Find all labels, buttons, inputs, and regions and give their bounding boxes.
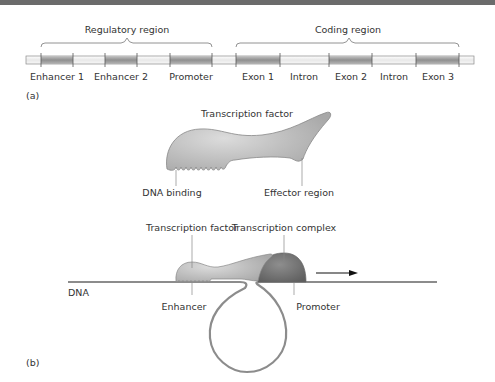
- panel-b: Transcription factor Transcription compl…: [26, 222, 437, 372]
- panel-b-label: (b): [26, 357, 39, 368]
- panel-a: Regulatory region Coding region Enhancer…: [26, 24, 474, 101]
- segment-enhancer-1: [41, 56, 73, 64]
- label-exon-2: Exon 2: [335, 71, 367, 82]
- label-exon-3: Exon 3: [422, 71, 454, 82]
- transcription-factor-bound-shape: [176, 254, 272, 282]
- regulatory-region-label: Regulatory region: [85, 24, 170, 35]
- transcription-complex-label: Transcription complex: [231, 222, 337, 233]
- dna-label: DNA: [68, 287, 89, 298]
- dna-strand: [68, 282, 437, 372]
- label-intron-1: Intron: [290, 71, 318, 82]
- dna-binding-label: DNA binding: [142, 187, 201, 198]
- label-promoter: Promoter: [169, 71, 213, 82]
- segment-exon-1: [236, 56, 280, 64]
- label-enhancer-1: Enhancer 1: [30, 71, 84, 82]
- coding-region-label: Coding region: [315, 24, 381, 35]
- transcription-factor-standalone: Transcription factor DNA binding Effecto…: [142, 108, 334, 198]
- effector-region-label: Effector region: [264, 187, 334, 198]
- transcription-factor-label-b: Transcription factor: [145, 222, 238, 233]
- segment-promoter: [170, 56, 212, 64]
- segment-exon-2: [329, 56, 372, 64]
- segment-enhancer-2: [105, 56, 137, 64]
- gene-regulation-diagram: Regulatory region Coding region Enhancer…: [0, 0, 495, 382]
- promoter-label: Promoter: [296, 301, 340, 312]
- enhancer-label: Enhancer: [162, 301, 207, 312]
- label-enhancer-2: Enhancer 2: [94, 71, 148, 82]
- label-exon-1: Exon 1: [242, 71, 274, 82]
- regulatory-region-brace: [41, 38, 212, 47]
- panel-a-label: (a): [26, 90, 39, 101]
- label-intron-2: Intron: [380, 71, 408, 82]
- transcription-factor-shape: [167, 112, 331, 170]
- coding-region-brace: [236, 38, 459, 47]
- segment-exon-3: [416, 56, 459, 64]
- transcription-factor-title: Transcription factor: [200, 108, 293, 119]
- transcription-direction-arrow-icon: [316, 270, 358, 276]
